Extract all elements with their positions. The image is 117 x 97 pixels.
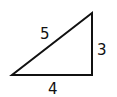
right-triangle xyxy=(12,13,92,75)
triangle-diagram: 5 3 4 xyxy=(0,0,117,97)
horizontal-leg-label: 4 xyxy=(48,80,58,97)
vertical-leg-label: 3 xyxy=(97,41,107,59)
hypotenuse-label: 5 xyxy=(40,25,50,43)
